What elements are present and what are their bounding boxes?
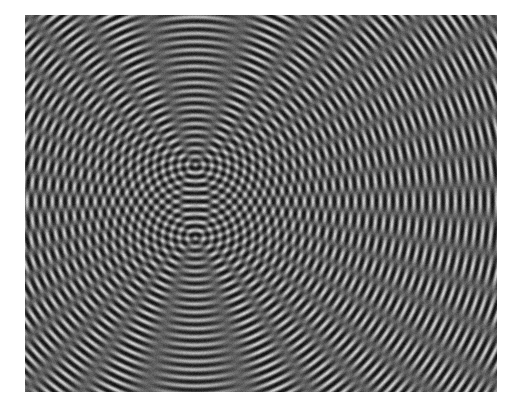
interference-canvas [25,15,497,392]
interference-pattern-image: two-source wave interference pattern [25,15,497,392]
